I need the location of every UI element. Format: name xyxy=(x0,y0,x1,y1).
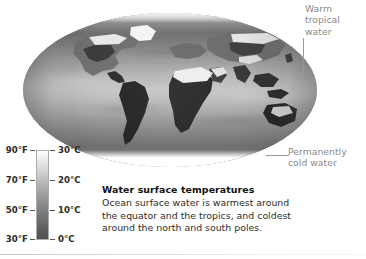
caption-body: Ocean surface water is warmest around th… xyxy=(102,197,312,235)
caption-line-2: the equator and the tropics, and coldest xyxy=(102,210,312,223)
tick-mark-c-20 xyxy=(50,180,55,181)
warm-water-leader-line xyxy=(303,38,304,86)
tick-mark-c-0 xyxy=(50,239,55,240)
tick-mark-f-70 xyxy=(30,180,35,181)
caption-line-3: around the north and south poles. xyxy=(102,222,312,235)
annotation-warm-tropical-water: Warm tropical water xyxy=(305,3,340,37)
globe-limb-shading xyxy=(23,13,317,167)
caption-block: Water surface temperatures Ocean surface… xyxy=(102,183,312,235)
cold-water-leader-line xyxy=(266,155,289,156)
map-clip xyxy=(23,13,317,167)
legend-label-90f: 90°F xyxy=(6,145,28,155)
tick-mark-f-30 xyxy=(30,239,35,240)
legend-label-30f: 30°F xyxy=(6,234,28,244)
temperature-legend: 90°F 30°C 70°F 20°C 50°F 10°C 30°F 0°C xyxy=(36,150,49,240)
caption-line-1: Ocean surface water is warmest around xyxy=(102,197,312,210)
caption-title: Water surface temperatures xyxy=(102,183,312,196)
legend-label-0c: 0°C xyxy=(58,234,75,244)
tick-mark-c-10 xyxy=(50,210,55,211)
temperature-colorbar-gradient xyxy=(36,150,49,240)
tick-mark-c-30 xyxy=(50,150,55,151)
legend-label-30c: 30°C xyxy=(58,145,81,155)
legend-label-70f: 70°F xyxy=(6,175,28,185)
tick-mark-f-50 xyxy=(30,210,35,211)
annotation-permanently-cold-water: Permanently cold water xyxy=(288,146,347,169)
legend-label-50f: 50°F xyxy=(6,205,28,215)
legend-label-10c: 10°C xyxy=(58,205,81,215)
world-map xyxy=(23,13,317,167)
tick-mark-f-90 xyxy=(30,150,35,151)
footer-divider xyxy=(0,254,366,255)
legend-label-20c: 20°C xyxy=(58,175,81,185)
figure-root: Warm tropical water Permanently cold wat… xyxy=(0,0,366,259)
